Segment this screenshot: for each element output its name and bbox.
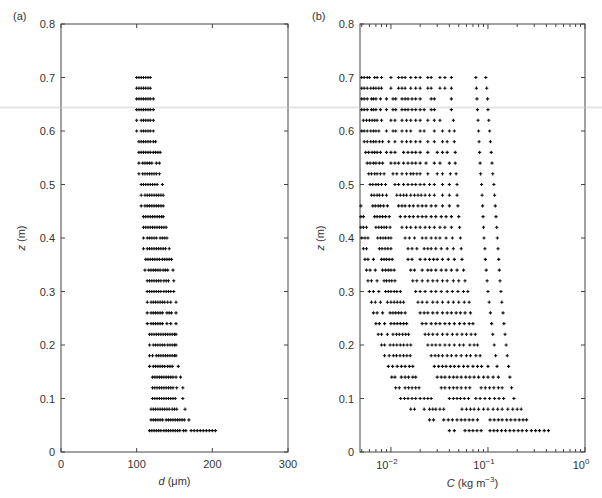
data-point-marker [363,129,366,132]
data-point-marker [169,290,172,293]
data-point-marker [162,194,165,197]
data-point-marker [491,333,494,336]
data-point-marker [158,162,161,165]
data-point-marker [393,119,396,122]
data-point-marker [382,204,385,207]
data-point-marker [480,365,483,368]
data-point-marker [409,140,412,143]
data-point-marker [446,247,449,250]
data-point-marker [380,119,383,122]
data-point-marker [482,376,485,379]
data-point-marker [380,87,383,90]
data-point-marker [432,258,435,261]
data-point-marker [381,269,384,272]
data-point-marker [477,140,480,143]
data-point-marker [482,408,485,411]
data-point-marker [454,151,457,154]
panel-label: (b) [312,10,325,22]
data-point-marker [442,418,445,421]
y-tick-label: 0.2 [339,339,354,351]
data-point-marker [149,97,152,100]
data-point-marker [486,365,489,368]
data-point-marker [495,365,498,368]
data-points [135,76,217,432]
data-point-marker [366,129,369,132]
x-tick-label: 10−1 [473,457,495,471]
data-point-marker [405,172,408,175]
panel-a: (a)00.10.20.30.40.50.60.70.8z (m)0100200… [0,0,300,498]
data-point-marker [431,279,434,282]
data-point-marker [468,301,471,304]
data-point-marker [455,333,458,336]
data-point-marker [501,311,504,314]
data-point-marker [481,215,484,218]
data-point-marker [443,87,446,90]
data-point-marker [424,258,427,261]
data-point-marker [416,194,419,197]
data-point-marker [508,376,511,379]
data-point-marker [419,258,422,261]
data-point-marker [446,151,449,154]
data-point-marker [467,397,470,400]
data-point-marker [453,343,456,346]
data-point-marker [501,386,504,389]
data-point-marker [443,376,446,379]
data-point-marker [371,183,374,186]
data-point-marker [403,397,406,400]
data-point-marker [463,397,466,400]
data-point-marker [485,269,488,272]
data-point-marker [171,386,174,389]
data-point-marker [365,247,368,250]
data-point-marker [394,97,397,100]
data-point-marker [448,204,451,207]
data-point-marker [400,204,403,207]
data-point-marker [431,408,434,411]
data-point-marker [389,322,392,325]
data-point-marker [452,397,455,400]
data-point-marker [500,301,503,304]
data-point-marker [504,429,507,432]
y-tick-label: 0.2 [40,339,55,351]
data-point-marker [430,343,433,346]
data-point-marker [407,376,410,379]
data-point-marker [393,279,396,282]
data-point-marker [518,418,521,421]
data-point-marker [381,140,384,143]
data-point-marker [375,76,378,79]
data-point-marker [443,76,446,79]
data-point-marker [163,301,166,304]
data-point-marker [480,194,483,197]
data-point-marker [477,408,480,411]
data-point-marker [393,162,396,165]
data-point-marker [419,311,422,314]
data-point-marker [497,386,500,389]
data-point-marker [437,354,440,357]
data-point-marker [405,226,408,229]
data-point-marker [488,397,491,400]
data-point-marker [377,183,380,186]
panel-b: (b)00.10.20.30.40.50.60.70.8z (m)10−210−… [300,0,602,498]
data-point-marker [446,311,449,314]
data-point-marker [440,386,443,389]
data-point-marker [452,119,455,122]
data-point-marker [450,97,453,100]
data-point-marker [391,333,394,336]
data-point-marker [177,365,180,368]
data-point-marker [202,429,205,432]
data-point-marker [370,301,373,304]
data-point-marker [424,194,427,197]
data-point-marker [438,162,441,165]
data-point-marker [419,87,422,90]
data-point-marker [386,333,389,336]
data-point-marker [463,322,466,325]
data-point-marker [452,279,455,282]
data-point-marker [367,151,370,154]
data-point-marker [165,322,168,325]
data-point-marker [521,429,524,432]
data-point-marker [397,87,400,90]
data-point-marker [163,365,166,368]
data-point-marker [385,129,388,132]
data-point-marker [464,376,467,379]
data-point-marker [412,204,415,207]
data-point-marker [480,429,483,432]
